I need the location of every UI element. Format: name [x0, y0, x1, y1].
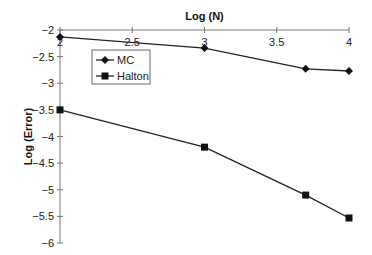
y-tick-label: −4.5	[32, 157, 54, 169]
x-axis-title: Log (N)	[185, 10, 224, 22]
y-axis-title: Log (Error)	[22, 107, 34, 165]
legend-label-mc: MC	[117, 54, 134, 66]
y-tick-label: −5.5	[32, 210, 54, 222]
y-tick-label: −3.5	[32, 104, 54, 116]
x-tick-label: 3.5	[269, 36, 284, 48]
data-point-mc	[345, 67, 353, 75]
data-point-halton	[201, 144, 208, 151]
line-chart: 22.533.54−2−2.5−3−3.5−4−4.5−5−5.5−6Log (…	[0, 0, 372, 255]
y-tick-label: −5	[41, 184, 54, 196]
data-point-mc	[302, 65, 310, 73]
y-tick-label: −4	[41, 131, 54, 143]
y-tick-label: −2	[41, 24, 54, 36]
series-line-halton	[60, 110, 349, 218]
data-point-halton	[57, 106, 64, 113]
data-point-halton	[346, 214, 353, 221]
data-point-halton	[302, 192, 309, 199]
y-tick-label: −6	[41, 237, 54, 249]
legend-label-halton: Halton	[117, 70, 149, 82]
legend-marker-halton	[102, 73, 109, 80]
x-tick-label: 4	[346, 36, 352, 48]
y-tick-label: −2.5	[32, 51, 54, 63]
y-tick-label: −3	[41, 77, 54, 89]
